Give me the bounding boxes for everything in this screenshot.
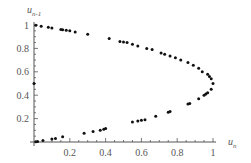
data-point: [99, 129, 102, 132]
data-point: [210, 77, 213, 80]
data-point: [54, 137, 57, 140]
data-point: [118, 40, 121, 43]
data-point: [201, 70, 204, 73]
data-point: [40, 25, 43, 28]
data-point: [61, 135, 64, 138]
data-point: [169, 55, 172, 58]
data-point: [41, 139, 44, 142]
data-point: [50, 26, 53, 29]
y-ticks: 0.20.40.60.81: [17, 20, 39, 125]
data-point: [186, 102, 189, 105]
x-tick-label: 0.6: [135, 147, 148, 158]
data-point: [197, 97, 200, 100]
data-point: [143, 118, 146, 121]
data-point: [210, 88, 213, 91]
data-point: [179, 59, 182, 62]
data-point: [102, 128, 105, 131]
x-tick-label: 0.8: [171, 147, 184, 158]
data-point: [83, 132, 86, 135]
data-point: [163, 53, 166, 56]
data-point: [122, 40, 125, 43]
data-point: [50, 138, 53, 141]
data-point: [33, 82, 36, 85]
data-point: [167, 111, 170, 114]
y-tick-label: 0.6: [17, 66, 30, 77]
scatter-chart: 0.20.40.60.81 0.20.40.60.81 un-1 un: [0, 0, 251, 163]
data-point: [68, 29, 71, 32]
x-ticks: 0.20.40.60.81: [64, 138, 216, 158]
y-tick-label: 1: [24, 20, 29, 31]
data-point: [131, 43, 134, 46]
x-axis-label: un: [228, 136, 237, 150]
data-point: [131, 121, 134, 124]
x-tick-label: 0.4: [99, 147, 112, 158]
data-point: [174, 56, 177, 59]
data-point: [186, 61, 189, 64]
y-tick-label: 0.4: [17, 90, 30, 101]
data-point: [34, 24, 37, 27]
data-point: [160, 52, 163, 55]
y-tick-label: 0.8: [17, 43, 30, 54]
x-tick-label: 1: [211, 147, 216, 158]
data-point: [74, 31, 77, 34]
data-point: [203, 94, 206, 97]
minor-ticks: [34, 31, 204, 142]
data-point: [140, 119, 143, 122]
data-point: [212, 82, 215, 85]
data-point: [197, 67, 200, 70]
data-point: [151, 48, 154, 51]
data-point: [192, 64, 195, 67]
data-point: [126, 41, 129, 44]
data-point: [136, 45, 139, 48]
data-point: [65, 29, 68, 32]
data-point: [61, 28, 64, 31]
data-point: [108, 37, 111, 40]
data-points: [33, 24, 215, 144]
y-tick-label: 0.2: [17, 113, 30, 124]
data-point: [34, 140, 37, 143]
data-point: [145, 47, 148, 50]
x-tick-label: 0.2: [64, 147, 77, 158]
data-point: [92, 130, 95, 133]
data-point: [154, 115, 157, 118]
data-point: [86, 33, 89, 36]
axes: 0.20.40.60.81 0.20.40.60.81: [17, 20, 217, 159]
data-point: [47, 26, 50, 29]
data-point: [136, 119, 139, 122]
y-axis-label: un-1: [27, 4, 41, 18]
